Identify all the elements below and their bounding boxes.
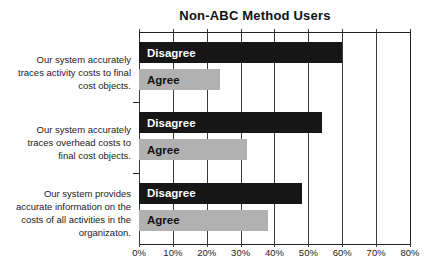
bar-label-disagree-1: Disagree bbox=[139, 117, 196, 129]
category-label-0: Our system accuratelytraces activity cos… bbox=[0, 53, 131, 92]
category-label-line: traces overhead costs to bbox=[0, 136, 131, 149]
x-tick-label-40pct: 40% bbox=[265, 247, 284, 258]
bar-disagree-1: Disagree bbox=[139, 112, 322, 133]
category-label-line: Our system accurately bbox=[0, 53, 131, 66]
x-tick-label-70pct: 70% bbox=[367, 247, 386, 258]
y-axis-group-tick-2 bbox=[133, 173, 139, 174]
bar-agree-0: Agree bbox=[139, 69, 220, 90]
category-label-line: costs of all activities in the bbox=[0, 213, 131, 226]
chart-title: Non-ABC Method Users bbox=[76, 8, 434, 23]
bar-agree-1: Agree bbox=[139, 139, 247, 160]
bar-label-agree-2: Agree bbox=[139, 214, 180, 226]
x-tick-label-30pct: 30% bbox=[231, 247, 250, 258]
bar-group-2: DisagreeAgree bbox=[139, 174, 410, 244]
category-label-1: Our system accuratelytraces overhead cos… bbox=[0, 123, 131, 162]
bar-disagree-2: Disagree bbox=[139, 183, 302, 204]
bar-group-0: DisagreeAgree bbox=[139, 33, 410, 103]
category-label-line: organizaton. bbox=[0, 226, 131, 239]
category-label-line: final cost objects. bbox=[0, 149, 131, 162]
chart-figure: Non-ABC Method Users Our system accurate… bbox=[0, 0, 434, 277]
plot-area: DisagreeAgreeDisagreeAgreeDisagreeAgree bbox=[139, 32, 411, 245]
bar-group-1: DisagreeAgree bbox=[139, 103, 410, 173]
category-label-line: Our system accurately bbox=[0, 123, 131, 136]
x-tick-label-50pct: 50% bbox=[299, 247, 318, 258]
category-label-line: cost objects. bbox=[0, 79, 131, 92]
bar-label-disagree-0: Disagree bbox=[139, 47, 196, 59]
x-axis-label-row: 0%10%20%30%40%50%60%70%80% bbox=[0, 247, 434, 261]
x-tick-label-80pct: 80% bbox=[400, 247, 419, 258]
x-tick-label-10pct: 10% bbox=[163, 247, 182, 258]
bar-agree-2: Agree bbox=[139, 210, 268, 231]
category-label-line: accurate information on the bbox=[0, 200, 131, 213]
bar-label-agree-1: Agree bbox=[139, 144, 180, 156]
bar-label-disagree-2: Disagree bbox=[139, 187, 196, 199]
category-label-2: Our system providesaccurate information … bbox=[0, 187, 131, 239]
bar-disagree-0: Disagree bbox=[139, 42, 342, 63]
bar-label-agree-0: Agree bbox=[139, 74, 180, 86]
x-tick-label-60pct: 60% bbox=[333, 247, 352, 258]
x-tick-label-20pct: 20% bbox=[197, 247, 216, 258]
y-axis-group-tick-1 bbox=[133, 102, 139, 103]
category-label-line: traces activity costs to final bbox=[0, 66, 131, 79]
x-tick-label-0pct: 0% bbox=[132, 247, 146, 258]
category-label-line: Our system provides bbox=[0, 187, 131, 200]
category-label-column: Our system accuratelytraces activity cos… bbox=[0, 32, 131, 243]
